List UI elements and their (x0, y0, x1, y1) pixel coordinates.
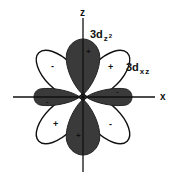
dz2-label-sup: 2 (109, 33, 113, 39)
node-gap-4 (86, 100, 88, 102)
dz2-label: 3dz2 (90, 29, 113, 40)
dxz-label-sub: xz (140, 67, 150, 76)
node-gap-3 (78, 100, 80, 102)
dxz-label-main: 3d (126, 61, 139, 73)
sign-dz2-bottom: + (76, 132, 81, 140)
sign-dz2-top: + (86, 48, 91, 56)
sign-dxz-upper-right: + (108, 63, 113, 72)
z-axis-label: z (80, 8, 85, 18)
dz2-label-sub: z2 (104, 34, 113, 43)
orbital-diagram: z x 3dz2 3dxz - + + - + + - - (0, 0, 178, 180)
sign-dxz-lower-right: - (109, 120, 112, 129)
sign-dz2-right: - (116, 88, 119, 96)
node-gap-2 (86, 92, 88, 94)
sign-dz2-left: - (46, 98, 49, 106)
orbital-diagram-svg (0, 0, 178, 180)
dz2-label-main: 3d (90, 28, 103, 40)
node-gap-1 (78, 92, 80, 94)
dxz-label: 3dxz (126, 62, 150, 73)
sign-dxz-upper-left: - (51, 62, 54, 71)
sign-dxz-lower-left: + (53, 120, 58, 129)
x-axis-label: x (160, 92, 166, 102)
